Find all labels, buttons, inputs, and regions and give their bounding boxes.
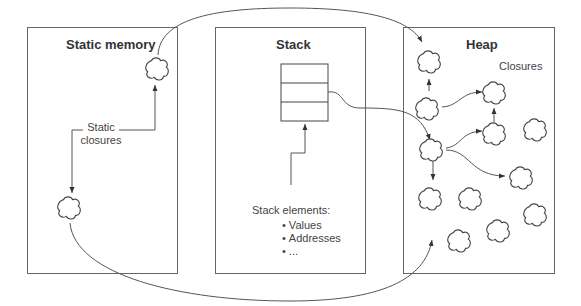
- heap-arrow: [442, 92, 482, 107]
- stack-frame: [281, 64, 328, 121]
- heap-arrow: [446, 150, 505, 176]
- cloud-icon: [419, 188, 441, 210]
- cloud-icon: [58, 197, 80, 219]
- cloud-icon: [483, 123, 505, 145]
- cloud-icon: [524, 204, 546, 226]
- cloud-icon: [448, 230, 470, 252]
- static-to-heap-arc-bottom: [70, 223, 432, 301]
- cloud-icon: [483, 82, 505, 104]
- cloud-icon: [146, 58, 168, 80]
- heap-arrow: [446, 131, 482, 148]
- stack-elements-arrow: [291, 124, 305, 185]
- cloud-icon: [416, 98, 438, 120]
- cloud-icon: [418, 51, 440, 73]
- cloud-icon: [510, 167, 532, 189]
- stack-to-heap-pointer: [328, 92, 430, 140]
- cloud-icon: [524, 119, 546, 141]
- cloud-icon: [487, 220, 509, 242]
- static-label-arrow-up: [119, 85, 155, 130]
- memory-diagram: [0, 0, 581, 306]
- cloud-icon: [420, 139, 442, 161]
- static-to-heap-arc-top: [158, 8, 422, 55]
- static-label-arrow-down: [72, 130, 83, 193]
- cloud-icon: [459, 188, 481, 210]
